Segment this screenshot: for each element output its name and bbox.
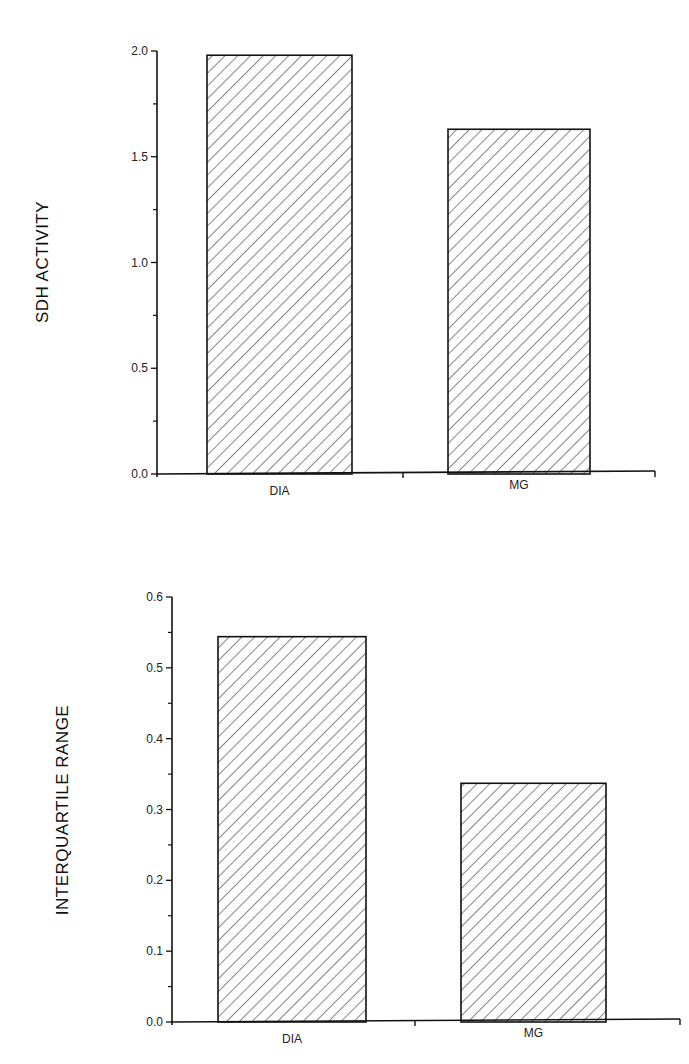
y-tick-label: 0.4 — [146, 732, 163, 746]
y-tick-label: 1.0 — [131, 256, 148, 270]
y-tick-label: 0.5 — [131, 361, 148, 375]
y-tick-label: 2.0 — [131, 44, 148, 58]
chart-interquartile-range: INTERQUARTILE RANGE DIAMG0.00.10.20.30.4… — [53, 590, 680, 1046]
y-tick-label: 0.0 — [146, 1015, 163, 1029]
y-tick-label: 0.3 — [146, 803, 163, 817]
y-axis-title: INTERQUARTILE RANGE — [53, 705, 72, 915]
y-tick-label: 0.1 — [146, 944, 163, 958]
bars — [207, 55, 590, 474]
x-tick-label: MG — [524, 1026, 543, 1040]
bar-mg — [461, 783, 606, 1022]
y-tick-label: 0.5 — [146, 661, 163, 675]
bar-dia — [207, 55, 352, 474]
y-tick-label: 0.6 — [146, 590, 163, 604]
x-tick-label: MG — [509, 478, 528, 492]
y-tick-label: 0.0 — [131, 467, 148, 481]
y-axis-title: SDH ACTIVITY — [33, 201, 52, 323]
y-tick-label: 1.5 — [131, 150, 148, 164]
chart-sdh-activity: SDH ACTIVITY DIAMG0.00.51.01.52.0 — [33, 44, 655, 498]
bar-mg — [448, 129, 590, 474]
bar-dia — [218, 637, 366, 1022]
bars — [218, 637, 606, 1022]
y-tick-label: 0.2 — [146, 873, 163, 887]
figure: SDH ACTIVITY DIAMG0.00.51.01.52.0 INTERQ… — [0, 0, 689, 1064]
x-tick-label: DIA — [269, 484, 289, 498]
x-tick-label: DIA — [282, 1032, 302, 1046]
